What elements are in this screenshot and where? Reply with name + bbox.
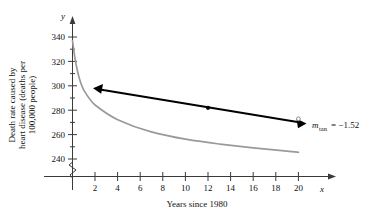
y-axis-label-line1: Death rate caused by <box>7 67 17 143</box>
y-tick-label: 320 <box>52 57 66 67</box>
x-axis-label: Years since 1980 <box>166 199 228 209</box>
x-tick-label: 12 <box>204 183 213 193</box>
x-tick-label: 8 <box>161 183 166 193</box>
y-axis-label-line3: 100,000 people) <box>27 76 37 135</box>
x-tick-label: 14 <box>226 183 236 193</box>
tangency-point-marker <box>206 106 210 110</box>
slope-annotation: m tan = −1.52 <box>312 120 359 132</box>
y-axis-arrowhead <box>70 16 76 24</box>
chart-svg: 340 320 300 280 260 240 2 4 6 8 10 12 14… <box>0 0 385 215</box>
death-rate-curve <box>73 41 299 153</box>
x-axis-tick-labels: 2 4 6 8 10 12 14 16 18 20 <box>93 183 304 193</box>
y-tick-label: 340 <box>52 32 66 42</box>
x-tick-label: 18 <box>271 183 281 193</box>
x-tick-label: 10 <box>181 183 191 193</box>
y-axis-label-line2: heart disease (deaths per <box>17 61 27 149</box>
y-axis-tick-labels: 340 320 300 280 260 240 <box>52 32 66 164</box>
tangent-left-arrowhead <box>93 84 103 94</box>
y-tick-label: 240 <box>52 154 66 164</box>
x-axis-arrowhead <box>328 174 336 180</box>
x-tick-label: 16 <box>249 183 259 193</box>
figure-canvas: 340 320 300 280 260 240 2 4 6 8 10 12 14… <box>0 0 385 215</box>
tangent-line <box>99 89 301 122</box>
curve-endpoint-marker <box>297 117 301 121</box>
slope-annotation-value: = −1.52 <box>331 120 359 130</box>
x-tick-label: 2 <box>93 183 98 193</box>
x-tick-label: 6 <box>138 183 143 193</box>
y-axis-letter: y <box>60 11 65 21</box>
x-axis-letter: x <box>319 184 324 194</box>
y-tick-label: 260 <box>52 130 66 140</box>
slope-annotation-subscript: tan <box>319 125 328 132</box>
x-tick-label: 20 <box>294 183 304 193</box>
y-axis-label: Death rate caused by heart disease (deat… <box>7 61 37 149</box>
x-tick-label: 4 <box>115 183 120 193</box>
y-tick-label: 300 <box>52 81 66 91</box>
y-tick-label: 280 <box>52 106 66 116</box>
slope-annotation-symbol: m <box>312 120 319 130</box>
